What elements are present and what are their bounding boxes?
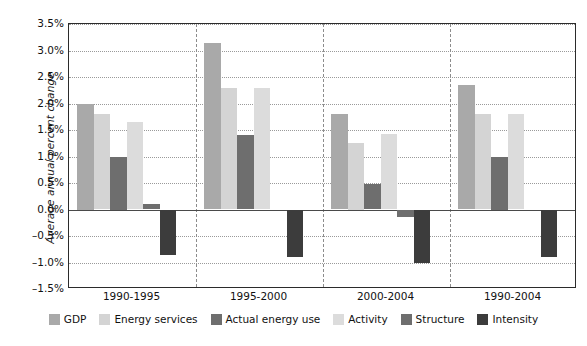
plot-area <box>68 23 576 288</box>
legend-item[interactable]: Activity <box>333 313 387 325</box>
y-axis-tick-labels: 3.5%3.0%2.5%2.0%1.5%1.0%0.5%0.0%–0.5%–1.… <box>18 0 64 346</box>
legend-label: Energy services <box>114 313 197 325</box>
legend-swatch-icon <box>477 314 488 325</box>
gridline <box>69 24 575 25</box>
legend-label: Actual energy use <box>226 313 321 325</box>
legend-label: Intensity <box>492 313 538 325</box>
bar <box>331 114 348 209</box>
group-divider <box>196 24 197 287</box>
bar <box>77 104 94 210</box>
legend-item[interactable]: Structure <box>401 313 465 325</box>
bar <box>221 88 238 210</box>
legend-item[interactable]: Actual energy use <box>211 313 321 325</box>
y-axis-tick-label: 2.0% <box>18 97 64 109</box>
legend-swatch-icon <box>99 314 110 325</box>
bar <box>348 143 365 209</box>
y-axis-tick-label: 3.5% <box>18 17 64 29</box>
x-axis-tick-label: 2000-2004 <box>357 290 414 302</box>
legend-swatch-icon <box>49 314 60 325</box>
bar <box>237 135 254 209</box>
legend-label: Activity <box>348 313 387 325</box>
bar <box>254 88 271 210</box>
gridline <box>69 236 575 237</box>
gridline <box>69 77 575 78</box>
y-axis-tick-label: 2.5% <box>18 70 64 82</box>
legend-item[interactable]: Energy services <box>99 313 197 325</box>
x-axis-tick-labels: 1990-19951995-20002000-20041990-2004 <box>68 290 576 310</box>
bar-chart: Average annual percent change 3.5%3.0%2.… <box>0 0 587 346</box>
gridline <box>69 130 575 131</box>
bar <box>508 114 525 209</box>
bar <box>110 157 127 210</box>
y-axis-tick-label: 0.5% <box>18 176 64 188</box>
bar <box>458 85 475 210</box>
bar <box>381 134 398 210</box>
y-axis-tick-label: –1.5% <box>18 282 64 294</box>
y-axis-tick-label: –0.5% <box>18 229 64 241</box>
zero-axis-line <box>69 210 575 211</box>
bar <box>541 210 558 258</box>
legend-swatch-icon <box>333 314 344 325</box>
x-axis-tick-label: 1990-1995 <box>103 290 160 302</box>
legend-swatch-icon <box>401 314 412 325</box>
bar <box>364 184 381 209</box>
x-axis-tick-label: 1995-2000 <box>230 290 287 302</box>
bar <box>397 210 414 218</box>
bar <box>94 114 111 209</box>
bar <box>414 210 431 263</box>
gridline <box>69 104 575 105</box>
bar <box>143 204 160 209</box>
y-axis-tick-label: 1.5% <box>18 123 64 135</box>
legend-label: GDP <box>64 313 87 325</box>
bar <box>491 157 508 210</box>
chart-legend: GDPEnergy servicesActual energy useActiv… <box>0 313 587 325</box>
group-divider <box>450 24 451 287</box>
gridline <box>69 263 575 264</box>
bar <box>204 43 221 210</box>
legend-item[interactable]: Intensity <box>477 313 538 325</box>
legend-swatch-icon <box>211 314 222 325</box>
bar <box>160 210 177 255</box>
y-axis-tick-label: –1.0% <box>18 256 64 268</box>
bar <box>127 122 144 209</box>
gridline <box>69 51 575 52</box>
legend-item[interactable]: GDP <box>49 313 87 325</box>
bar <box>475 114 492 209</box>
y-axis-tick-label: 0.0% <box>18 203 64 215</box>
legend-label: Structure <box>416 313 465 325</box>
x-axis-tick-label: 1990-2004 <box>484 290 541 302</box>
bar <box>287 210 304 258</box>
y-axis-tick-label: 1.0% <box>18 150 64 162</box>
y-axis-tick-label: 3.0% <box>18 44 64 56</box>
group-divider <box>323 24 324 287</box>
